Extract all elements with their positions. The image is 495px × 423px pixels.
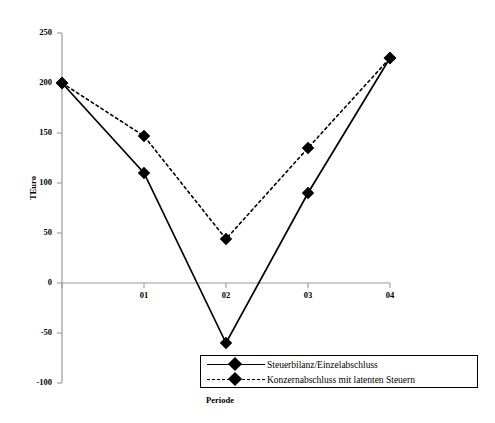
series-steuerbilanz-line bbox=[62, 58, 390, 343]
series-konzernabschluss-markers bbox=[56, 52, 396, 245]
legend-entry-konzernabschluss: Konzernabschluss mit latenten Steuern bbox=[201, 372, 479, 388]
series-konzernabschluss-line bbox=[62, 58, 390, 239]
y-tick-label-250: 250 bbox=[12, 28, 52, 37]
x-tick-label-04: 04 bbox=[370, 291, 410, 300]
legend-key-solid-line-icon bbox=[205, 358, 267, 372]
legend-label-konzernabschluss: Konzernabschluss mit latenten Steuern bbox=[267, 375, 415, 385]
y-tick-label-50: 50 bbox=[12, 228, 52, 237]
series-steuerbilanz-markers bbox=[56, 52, 396, 349]
chart-container: 250 200 150 100 50 0 -50 -100 01 02 03 0… bbox=[0, 0, 495, 423]
x-tick-marks bbox=[62, 283, 390, 288]
y-tick-label-150: 150 bbox=[12, 128, 52, 137]
legend-entry-steuerbilanz: Steuerbilanz/Einzelabschluss bbox=[201, 357, 479, 373]
x-axis-title: Periode bbox=[160, 395, 280, 405]
y-tick-label-0: 0 bbox=[12, 278, 52, 287]
x-tick-label-01: 01 bbox=[124, 291, 164, 300]
legend-key-dotted-line-icon bbox=[205, 373, 267, 387]
legend-label-steuerbilanz: Steuerbilanz/Einzelabschluss bbox=[267, 360, 378, 370]
y-tick-label-200: 200 bbox=[12, 78, 52, 87]
y-axis-title: TEuro bbox=[28, 158, 38, 218]
y-tick-label-neg50: -50 bbox=[12, 328, 52, 337]
x-tick-label-02: 02 bbox=[206, 291, 246, 300]
chart-legend: Steuerbilanz/Einzelabschluss Konzernabsc… bbox=[200, 355, 478, 388]
y-tick-label-neg100: -100 bbox=[12, 378, 52, 387]
x-tick-label-03: 03 bbox=[288, 291, 328, 300]
